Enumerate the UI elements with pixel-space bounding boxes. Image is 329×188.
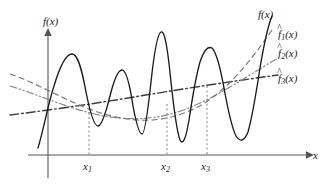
x-axis-label-text: x	[313, 149, 318, 161]
tick-label-x1-subscript: 1	[88, 165, 92, 174]
curve-label-f1: ^f1(x)	[278, 29, 297, 42]
f2-hat-base: ^f	[278, 48, 281, 59]
f3-hat-base: ^f	[278, 73, 281, 84]
x-axis-label: x	[313, 150, 318, 161]
tick-label-x1: x1	[83, 161, 92, 174]
curve-label-f1-arg: (x)	[285, 28, 297, 40]
tick-label-x2: x2	[161, 161, 170, 174]
y-axis-arrowhead	[44, 28, 52, 36]
f1-hat-base: ^f	[278, 29, 281, 40]
tick-label-x3-subscript: 3	[206, 165, 210, 174]
x-axis	[28, 151, 314, 159]
curve-label-f-text: f(x)	[258, 8, 273, 20]
y-axis-label: f(x)	[43, 16, 58, 27]
tick-label-x3: x3	[201, 161, 210, 174]
circumflex-icon: ^	[277, 68, 281, 77]
circumflex-icon: ^	[277, 24, 281, 33]
curve-f3-approximation	[10, 75, 278, 115]
tick-label-x2-subscript: 2	[166, 165, 170, 174]
curve-label-f: f(x)	[258, 9, 273, 20]
curve-label-f2-arg: (x)	[285, 47, 297, 59]
y-axis-label-text: f(x)	[43, 15, 58, 27]
curve-label-f3: ^f3(x)	[278, 73, 297, 86]
curve-f-true-function	[38, 16, 272, 148]
curve-label-f3-arg: (x)	[285, 72, 297, 84]
curve-label-f2: ^f2(x)	[278, 48, 297, 61]
curve-f1-approximation	[10, 30, 272, 120]
circumflex-icon: ^	[277, 43, 281, 52]
figure-container: f(x) f(x) ^f1(x) ^f2(x) ^f3(x) x x1 x2 x…	[0, 0, 329, 188]
